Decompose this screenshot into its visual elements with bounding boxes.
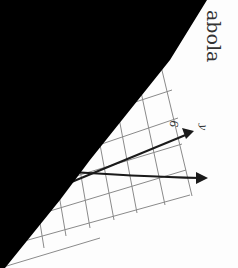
- heading-fragment: abola: [203, 10, 225, 62]
- black-mask: [0, 0, 207, 268]
- graph-figure: 6 y abola: [0, 0, 238, 268]
- photo-of-textbook-page: 6 y abola: [0, 0, 238, 268]
- tick-label: 6: [167, 119, 181, 128]
- axis-label-y: y: [198, 122, 210, 131]
